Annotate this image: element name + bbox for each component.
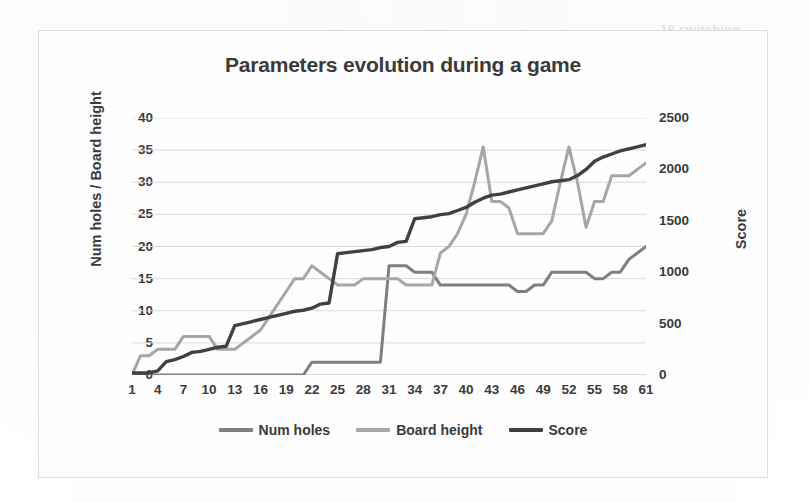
legend-swatch-icon xyxy=(219,428,253,432)
legend-swatch-icon xyxy=(356,428,390,432)
x-axis-tick-label: 4 xyxy=(145,383,171,397)
y-axis-right-title: Score xyxy=(733,189,749,269)
x-axis-tick-label: 28 xyxy=(350,383,376,397)
y-axis-left-title: Num holes / Board height xyxy=(88,74,104,284)
x-axis-tick-label: 52 xyxy=(556,383,582,397)
y-axis-right-tick-label: 2500 xyxy=(659,111,709,125)
x-axis-tick-label: 40 xyxy=(453,383,479,397)
x-axis-tick-label: 49 xyxy=(530,383,556,397)
x-axis-tick-label: 55 xyxy=(582,383,608,397)
chart-frame: Parameters evolution during a game Num h… xyxy=(38,30,768,478)
legend-label: Num holes xyxy=(259,422,331,438)
x-axis-tick-label: 19 xyxy=(273,383,299,397)
x-axis-tick-label: 43 xyxy=(479,383,505,397)
x-axis-tick-label: 22 xyxy=(299,383,325,397)
x-axis-tick-label: 10 xyxy=(196,383,222,397)
x-axis-tick-label: 1 xyxy=(119,383,145,397)
x-axis-tick-label: 7 xyxy=(170,383,196,397)
chart-legend: Num holesBoard heightScore xyxy=(39,422,767,438)
legend-label: Score xyxy=(549,422,588,438)
x-axis-tick-label: 58 xyxy=(607,383,633,397)
y-axis-right-tick-label: 2000 xyxy=(659,162,709,176)
y-axis-right-tick-label: 1000 xyxy=(659,265,709,279)
x-axis-tick-label: 16 xyxy=(248,383,274,397)
x-axis-tick-label: 46 xyxy=(505,383,531,397)
x-axis-tick-label: 13 xyxy=(222,383,248,397)
x-axis-tick-label: 25 xyxy=(325,383,351,397)
legend-item-num-holes[interactable]: Num holes xyxy=(219,422,331,438)
x-axis-tick-label: 37 xyxy=(427,383,453,397)
legend-label: Board height xyxy=(396,422,482,438)
plot-area xyxy=(132,118,646,375)
plot-svg xyxy=(132,118,646,375)
legend-swatch-icon xyxy=(509,428,543,432)
y-axis-right-tick-label: 1500 xyxy=(659,214,709,228)
series-lines xyxy=(132,145,646,375)
legend-item-board-height[interactable]: Board height xyxy=(356,422,482,438)
y-axis-right-tick-label: 500 xyxy=(659,317,709,331)
y-axis-right-tick-label: 0 xyxy=(659,368,709,382)
x-axis-tick-label: 61 xyxy=(633,383,659,397)
x-axis-tick-label: 31 xyxy=(376,383,402,397)
legend-item-score[interactable]: Score xyxy=(509,422,588,438)
chart-title: Parameters evolution during a game xyxy=(39,53,767,77)
x-axis-tick-label: 34 xyxy=(402,383,428,397)
